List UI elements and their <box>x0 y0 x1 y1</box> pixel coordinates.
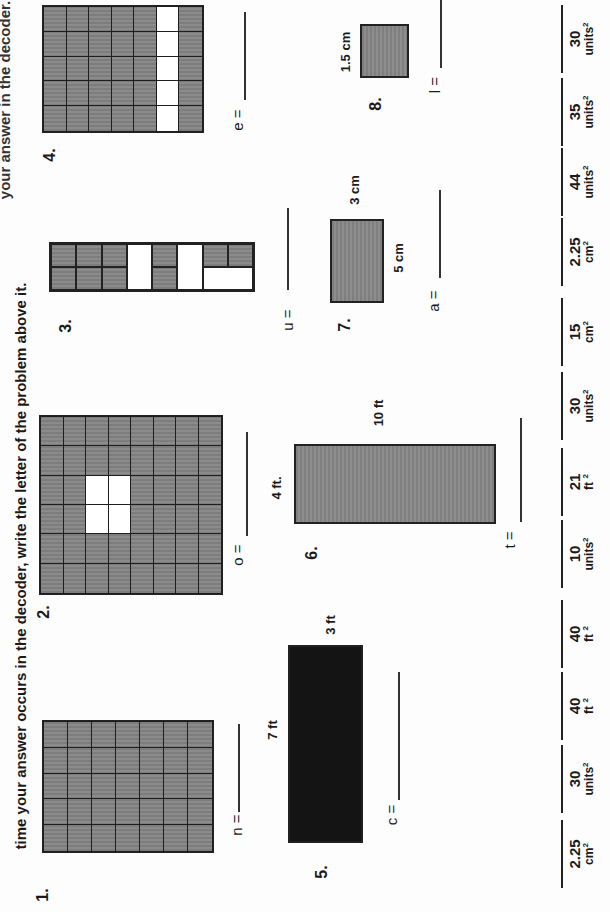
grid-cell <box>109 476 132 505</box>
decoder-answer-line[interactable] <box>561 372 563 440</box>
decoder-answer-line[interactable] <box>561 600 563 668</box>
problem-3-grid <box>49 242 255 292</box>
grid-cell <box>41 446 64 475</box>
grid-cell <box>68 774 92 800</box>
grid-cell <box>86 534 109 563</box>
decoder-answer-line[interactable] <box>561 745 563 813</box>
decoder-blank: 2.25cm2 <box>561 820 601 888</box>
grid-cell <box>134 106 157 131</box>
grid-cell <box>199 505 222 534</box>
decoder-blank: 40ft 2 <box>561 600 601 668</box>
decoder-value: 10units2 <box>567 537 595 570</box>
decoder-value: 35units2 <box>567 95 595 128</box>
decoder-answer-line[interactable] <box>561 448 563 516</box>
answer-label-u: u = <box>279 309 296 330</box>
decoder-unit: cm2 <box>582 237 595 266</box>
grid-cell <box>76 244 101 267</box>
answer-line-l[interactable] <box>440 0 442 68</box>
decoder-answer-line[interactable] <box>561 218 563 286</box>
answer-line-t[interactable] <box>520 418 522 522</box>
grid-cell <box>68 748 92 774</box>
decoder-value: 30units2 <box>567 762 595 795</box>
grid-cell <box>109 417 132 446</box>
decoder-number: 21 <box>567 474 582 491</box>
grid-cell <box>92 799 116 825</box>
grid-cell <box>199 476 222 505</box>
answer-label-n: n = <box>228 814 245 835</box>
grid-cell <box>89 7 112 32</box>
grid-cell <box>92 825 116 851</box>
decoder-value: 21ft 2 <box>567 474 595 491</box>
grid-cell <box>116 825 140 851</box>
decoder-blank: 44units2 <box>561 148 601 216</box>
grid-cell <box>164 774 188 800</box>
problem-6-length-label: 10 ft <box>371 400 386 427</box>
grid-cell <box>140 774 164 800</box>
grid-cell <box>41 564 64 593</box>
problem-8-square <box>360 24 409 78</box>
answer-line-c[interactable] <box>398 672 400 800</box>
grid-cell <box>157 32 180 57</box>
grid-cell <box>152 244 177 267</box>
decoder-number: 44 <box>567 165 582 198</box>
grid-cell <box>188 825 212 851</box>
decoder-value: 40ft 2 <box>567 698 595 715</box>
decoder-blank: 21ft 2 <box>561 448 601 516</box>
decoder-answer-line[interactable] <box>561 820 563 888</box>
decoder-answer-line[interactable] <box>561 298 563 366</box>
grid-cell <box>68 722 92 748</box>
answer-line-o[interactable] <box>246 432 248 536</box>
problem-5-width-label: 3 ft <box>323 615 338 635</box>
problem-7-number: 7. <box>336 318 354 331</box>
grid-cell <box>86 476 109 505</box>
grid-cell <box>157 81 180 106</box>
decoder-unit: units2 <box>582 537 595 570</box>
grid-cell <box>176 534 199 563</box>
grid-cell <box>112 81 135 106</box>
grid-cell <box>89 106 112 131</box>
grid-cell <box>164 722 188 748</box>
decoder-answer-line[interactable] <box>561 520 563 588</box>
answer-label-e: e = <box>229 109 246 130</box>
decoder-answer-line[interactable] <box>561 148 563 216</box>
decoder-blank: 40ft 2 <box>561 672 601 740</box>
answer-line-e[interactable] <box>244 12 246 100</box>
grid-cell <box>179 57 202 82</box>
grid-cell <box>109 534 132 563</box>
grid-cell <box>109 564 132 593</box>
decoder-number: 10 <box>567 537 582 570</box>
answer-label-c: c = <box>383 805 400 825</box>
grid-cell-white <box>127 244 152 290</box>
grid-cell <box>64 505 87 534</box>
grid-cell <box>131 534 154 563</box>
grid-cell <box>188 799 212 825</box>
decoder-unit: units2 <box>582 95 595 128</box>
grid-cell <box>86 564 109 593</box>
grid-cell <box>44 799 68 825</box>
grid-cell <box>116 722 140 748</box>
answer-line-u[interactable] <box>287 208 289 290</box>
decoder-unit: units2 <box>582 165 595 198</box>
decoder-answer-line[interactable] <box>561 5 563 73</box>
grid-cell <box>179 7 202 32</box>
problem-2-grid <box>39 415 223 595</box>
grid-cell <box>109 505 132 534</box>
grid-cell <box>140 825 164 851</box>
decoder-answer-line[interactable] <box>561 672 563 740</box>
grid-cell <box>67 57 90 82</box>
answer-line-a[interactable] <box>439 190 441 278</box>
grid-cell <box>116 748 140 774</box>
decoder-blank: 35units2 <box>561 78 601 146</box>
grid-cell <box>41 476 64 505</box>
grid-cell <box>112 57 135 82</box>
grid-cell <box>44 774 68 800</box>
decoder-unit: units2 <box>582 22 595 55</box>
grid-cell <box>176 564 199 593</box>
grid-cell <box>199 417 222 446</box>
grid-cell <box>131 417 154 446</box>
decoder-answer-line[interactable] <box>561 78 563 146</box>
answer-line-n[interactable] <box>238 724 240 812</box>
decoder-number: 15 <box>567 321 582 343</box>
grid-cell <box>116 799 140 825</box>
decoder-number: 2.25 <box>567 839 582 868</box>
